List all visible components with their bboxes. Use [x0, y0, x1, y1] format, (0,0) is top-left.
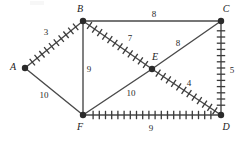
vertex-label-e: E	[152, 52, 158, 62]
vertex-d	[218, 112, 224, 118]
edge-c-e	[152, 21, 221, 69]
edge-e-d	[152, 69, 221, 115]
edge-a-f	[25, 68, 83, 115]
edge-weight-a-b: 3	[44, 28, 49, 37]
vertex-c	[218, 18, 224, 24]
edge-f-e	[83, 69, 152, 115]
vertex-label-b: B	[77, 4, 83, 14]
vertex-label-a: A	[10, 62, 16, 72]
vertex-label-d: D	[222, 122, 229, 132]
vertex-layer	[22, 18, 224, 118]
edge-weight-b-e: 7	[128, 34, 133, 43]
edge-weight-b-f: 9	[87, 65, 92, 74]
edge-b-e	[83, 21, 152, 69]
edge-a-b	[25, 21, 83, 68]
edge-weight-f-e: 10	[127, 89, 136, 98]
edge-weight-f-d: 9	[149, 124, 154, 133]
edge-weight-e-d: 4	[187, 79, 192, 88]
vertex-f	[80, 112, 86, 118]
graph-canvas	[0, 0, 245, 143]
edge-weight-c-e: 8	[176, 39, 181, 48]
vertex-label-f: F	[77, 122, 83, 132]
vertex-e	[149, 66, 155, 72]
vertex-a	[22, 65, 28, 71]
edge-layer	[25, 21, 221, 115]
edge-weight-a-f: 10	[40, 91, 49, 100]
edge-weight-c-d: 5	[230, 66, 235, 75]
vertex-b	[80, 18, 86, 24]
graph-figure: ABCDEF 387985410109	[0, 0, 245, 143]
vertex-label-c: C	[223, 4, 230, 14]
edge-weight-b-c: 8	[152, 10, 157, 19]
